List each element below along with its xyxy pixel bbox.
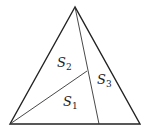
region-label-s1: S1	[63, 94, 78, 111]
region-label-s2: S2	[57, 55, 72, 72]
inner-segment	[10, 71, 87, 124]
region-label-s3: S3	[97, 72, 112, 89]
triangle-diagram: S2 S3 S1	[0, 0, 148, 128]
triangle-figure: S2 S3 S1	[0, 0, 148, 128]
cevian-line	[75, 7, 99, 124]
